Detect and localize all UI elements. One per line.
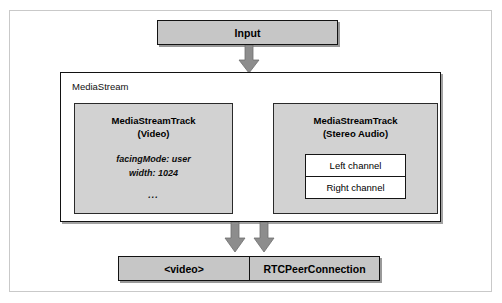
mediastream-label: MediaStream	[72, 81, 129, 92]
video-track-title-line1: MediaStreamTrack	[112, 115, 196, 128]
diagram-canvas: Input MediaStream MediaStreamTrack (Vide…	[0, 0, 502, 303]
outputs-row: <video> RTCPeerConnection	[118, 256, 380, 281]
mediastreamtrack-video-box: MediaStreamTrack (Video) facingMode: use…	[74, 103, 233, 214]
output-rtcpeerconnection-box: RTCPeerConnection	[249, 257, 379, 280]
input-box: Input	[157, 20, 338, 45]
arrow-mediastream-to-video-icon	[224, 222, 246, 253]
input-box-label: Input	[234, 27, 260, 39]
output-video-box: <video>	[119, 257, 249, 280]
video-track-property-width: width: 1024	[116, 167, 191, 181]
audio-track-title: MediaStreamTrack (Stereo Audio)	[314, 115, 398, 140]
video-track-properties: facingMode: user width: 1024 ...	[116, 153, 191, 203]
audio-channel-left-label: Left channel	[330, 160, 382, 171]
mediastream-container: MediaStream MediaStreamTrack (Video) fac…	[60, 72, 441, 222]
video-track-property-facingmode: facingMode: user	[116, 153, 191, 167]
audio-channel-right: Right channel	[306, 176, 405, 198]
arrow-input-to-mediastream-icon	[238, 45, 260, 74]
mediastreamtrack-audio-box: MediaStreamTrack (Stereo Audio) Left cha…	[273, 103, 438, 214]
video-track-title: MediaStreamTrack (Video)	[112, 115, 196, 140]
output-rtcpeerconnection-label: RTCPeerConnection	[263, 263, 365, 275]
audio-channel-left: Left channel	[306, 155, 405, 176]
video-track-property-ellipsis: ...	[116, 189, 191, 203]
output-video-label: <video>	[164, 263, 204, 275]
audio-channels-group: Left channel Right channel	[305, 154, 406, 199]
audio-track-title-line2: (Stereo Audio)	[314, 128, 398, 141]
arrow-mediastream-to-rtcpeerconnection-icon	[253, 222, 275, 253]
audio-channel-right-label: Right channel	[326, 182, 384, 193]
audio-track-title-line1: MediaStreamTrack	[314, 115, 398, 128]
video-track-title-line2: (Video)	[112, 128, 196, 141]
